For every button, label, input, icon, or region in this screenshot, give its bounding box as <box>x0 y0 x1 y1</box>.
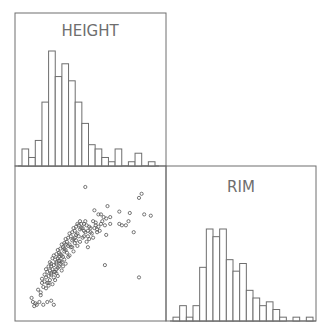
scatter-point <box>37 288 40 291</box>
scatter-point <box>120 224 123 227</box>
scatter-point <box>86 246 89 249</box>
histogram-bar <box>115 149 122 166</box>
scatter-point <box>92 236 95 239</box>
scatter-point <box>132 231 135 234</box>
scatter-point <box>43 273 46 276</box>
scatter-point <box>44 287 47 290</box>
scatter-point <box>63 258 66 261</box>
scatter-point <box>137 276 140 279</box>
histogram-bar <box>186 317 193 321</box>
histogram-bar <box>29 157 36 166</box>
histogram-bar <box>173 317 180 321</box>
scatter-point <box>106 205 109 208</box>
scatter-point <box>54 279 57 282</box>
histogram-bar <box>213 237 220 321</box>
histogram-bar <box>89 145 96 166</box>
scatter-point <box>85 240 88 243</box>
histogram-bar <box>266 302 273 321</box>
scatter-point <box>84 220 87 223</box>
histogram-bar <box>240 264 247 322</box>
scatter-point <box>88 237 91 240</box>
scatter-point <box>60 269 63 272</box>
histogram-bar <box>233 271 240 321</box>
histogram-bar <box>148 162 155 166</box>
histogram-bar <box>135 153 142 166</box>
histogram-bar <box>253 298 260 321</box>
histogram-bar <box>35 140 42 166</box>
scatter-point <box>30 296 33 299</box>
scatter-point <box>42 303 45 306</box>
histogram-bar <box>82 123 89 166</box>
scatter-point <box>118 210 121 213</box>
scatter-point <box>105 217 108 220</box>
panel-frames <box>15 13 316 321</box>
histogram-bar <box>42 102 49 166</box>
scatter-point <box>105 233 108 236</box>
histogram-bar <box>220 229 227 321</box>
histogram-bar <box>102 157 109 166</box>
scatter-point <box>149 214 152 217</box>
scatter-point <box>109 216 112 219</box>
histogram-bar <box>108 162 115 166</box>
scatter-point <box>56 274 59 277</box>
scatter-point <box>137 196 140 199</box>
histogram-bar <box>246 290 253 321</box>
histogram-bar <box>55 77 62 166</box>
histogram-bar <box>200 267 207 321</box>
scatter-point <box>124 224 127 227</box>
scatter-point <box>52 303 55 306</box>
scatter-panel-frame <box>15 166 166 321</box>
scatter-point <box>40 277 43 280</box>
scatter-matrix-chart: HEIGHT RIM <box>0 0 330 336</box>
scatter-point <box>46 300 49 303</box>
scatter-point <box>38 300 41 303</box>
scatter-point <box>103 224 106 227</box>
rim-histogram <box>170 229 316 321</box>
rim-title: RIM <box>227 178 255 196</box>
height-histogram <box>18 51 159 166</box>
histogram-bar <box>306 317 313 321</box>
scatter-point <box>143 213 146 216</box>
scatter-point <box>103 264 106 267</box>
scatter-point <box>44 268 47 271</box>
scatter-point <box>50 299 53 302</box>
scatter-point <box>76 244 79 247</box>
height-title: HEIGHT <box>61 22 119 40</box>
scatter-point <box>61 265 64 268</box>
histogram-bar <box>22 149 29 166</box>
scatter-point <box>77 235 80 238</box>
histogram-bar <box>128 162 135 166</box>
scatter-point <box>64 262 67 265</box>
histogram-bar <box>75 102 82 166</box>
scatter-point <box>51 283 54 286</box>
histogram-bar <box>62 64 69 166</box>
histogram-bar <box>293 317 300 321</box>
histogram-bar <box>273 310 280 322</box>
scatter-point <box>101 220 104 223</box>
histogram-bar <box>69 81 76 166</box>
histogram-bar <box>180 306 187 321</box>
scatter-point <box>72 250 75 253</box>
height-vs-rim-scatter <box>30 185 152 307</box>
scatter-point <box>93 209 96 212</box>
scatter-point <box>84 185 87 188</box>
scatter-point <box>128 211 131 214</box>
histogram-bar <box>260 306 267 321</box>
histogram-bar <box>206 229 213 321</box>
histogram-bar <box>49 51 56 166</box>
scatter-point <box>78 240 81 243</box>
scatter-point <box>51 257 54 260</box>
scatter-point <box>140 192 143 195</box>
histogram-bar <box>95 149 102 166</box>
scatter-point <box>109 222 112 225</box>
histogram-bar <box>193 306 200 321</box>
histogram-bar <box>280 317 287 321</box>
histogram-bar <box>226 260 233 321</box>
scatter-point <box>127 220 130 223</box>
